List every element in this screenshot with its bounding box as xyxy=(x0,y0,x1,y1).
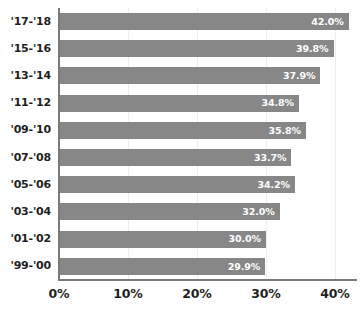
bar: 42.0% xyxy=(59,13,349,30)
bar: 33.7% xyxy=(59,149,291,166)
bar-row: 42.0% xyxy=(59,8,357,35)
bar: 30.0% xyxy=(59,231,266,248)
bar-row: 32.0% xyxy=(59,198,357,225)
bar-value-label: 33.7% xyxy=(254,153,291,163)
category-label: '15-'16 xyxy=(0,43,51,54)
bar-value-label: 34.2% xyxy=(257,180,294,190)
bar: 34.2% xyxy=(59,176,295,193)
bar-row: 34.2% xyxy=(59,171,357,198)
bar-row: 34.8% xyxy=(59,90,357,117)
x-axis-tick-label: 10% xyxy=(98,288,158,301)
bar-value-label: 35.8% xyxy=(268,126,305,136)
category-label: '11-'12 xyxy=(0,97,51,108)
bar-value-label: 29.9% xyxy=(228,262,265,272)
bar: 32.0% xyxy=(59,203,280,220)
bar-row: 30.0% xyxy=(59,226,357,253)
x-axis-line xyxy=(58,279,357,281)
category-label: '07-'08 xyxy=(0,152,51,163)
x-axis-tick-label: 30% xyxy=(236,288,296,301)
bar-value-label: 32.0% xyxy=(242,207,279,217)
y-axis-line xyxy=(58,8,60,280)
bar-row: 29.9% xyxy=(59,253,357,280)
x-axis-tick-label: 40% xyxy=(305,288,363,301)
bar: 34.8% xyxy=(59,95,299,112)
bar-value-label: 37.9% xyxy=(283,71,320,81)
category-label: '13-'14 xyxy=(0,70,51,81)
category-label: '09-'10 xyxy=(0,124,51,135)
bar-row: 39.8% xyxy=(59,35,357,62)
bar-value-label: 30.0% xyxy=(228,234,265,244)
bar: 37.9% xyxy=(59,67,320,84)
bar-value-label: 42.0% xyxy=(311,17,348,27)
plot-area: 42.0%39.8%37.9%34.8%35.8%33.7%34.2%32.0%… xyxy=(59,8,357,280)
bar-row: 33.7% xyxy=(59,144,357,171)
bar-value-label: 39.8% xyxy=(296,44,333,54)
category-label: '01-'02 xyxy=(0,233,51,244)
x-axis-tick-label: 20% xyxy=(167,288,227,301)
bar-value-label: 34.8% xyxy=(262,98,299,108)
bar-row: 37.9% xyxy=(59,62,357,89)
category-label: '17-'18 xyxy=(0,16,51,27)
category-label: '03-'04 xyxy=(0,206,51,217)
category-label: '05-'06 xyxy=(0,179,51,190)
x-axis-tick-label: 0% xyxy=(29,288,89,301)
category-label: '99-'00 xyxy=(0,260,51,271)
bar: 35.8% xyxy=(59,122,306,139)
bar-row: 35.8% xyxy=(59,117,357,144)
bar: 39.8% xyxy=(59,40,334,57)
horizontal-bar-chart: 42.0%39.8%37.9%34.8%35.8%33.7%34.2%32.0%… xyxy=(0,0,363,322)
bar: 29.9% xyxy=(59,258,265,275)
